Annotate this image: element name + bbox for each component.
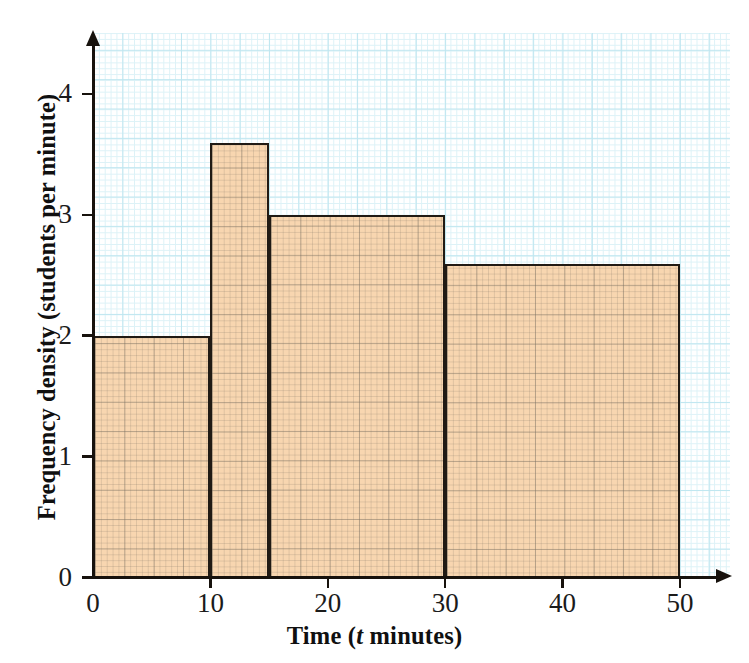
plot-area: [93, 33, 730, 578]
x-axis-tick: [561, 577, 564, 588]
histogram-bar: [93, 336, 210, 578]
y-axis-line: [92, 41, 95, 578]
histogram-figure: 01234 01020304050 Time (t minutes) Frequ…: [0, 0, 749, 663]
y-axis-title: Frequency density (students per minute): [33, 17, 61, 597]
y-axis-tick: [82, 214, 94, 217]
y-axis-tick: [82, 93, 94, 96]
x-axis-tick-label: 30: [410, 590, 480, 617]
histogram-bar: [269, 215, 445, 578]
x-axis-tick-label: 10: [175, 590, 245, 617]
x-axis-title-after: minutes): [363, 622, 462, 649]
x-axis-tick: [327, 577, 330, 588]
histogram-bar: [445, 264, 680, 578]
y-axis-tick: [82, 455, 94, 458]
x-axis-arrow-icon: [716, 569, 732, 583]
y-axis-arrow-icon: [86, 30, 100, 46]
x-axis-tick-label: 50: [645, 590, 715, 617]
x-axis-tick-label: 40: [528, 590, 598, 617]
histogram-bar: [210, 143, 269, 578]
x-axis-tick: [679, 577, 682, 588]
y-axis-tick: [82, 334, 94, 337]
x-axis-tick-label: 20: [293, 590, 363, 617]
x-axis-tick: [444, 577, 447, 588]
x-axis-title-before: Time (: [287, 622, 356, 649]
x-axis-title: Time (t minutes): [0, 622, 749, 650]
x-axis-line: [93, 576, 721, 579]
x-axis-tick: [209, 577, 212, 588]
y-axis-tick: [82, 576, 94, 579]
x-axis-tick-label: 0: [58, 590, 128, 617]
